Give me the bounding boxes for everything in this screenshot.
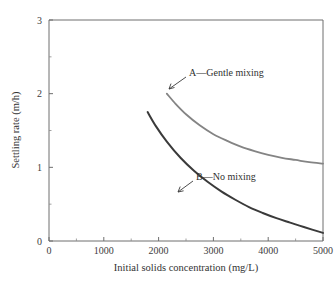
y-tick-label: 1 (37, 162, 42, 173)
y-axis-title: Settling rate (m/h) (10, 91, 22, 168)
x-tick-label: 4000 (258, 245, 278, 256)
y-tick-label: 3 (37, 15, 42, 26)
x-tick-label: 2000 (149, 245, 169, 256)
series-label-a: A—Gentle mixing (189, 67, 264, 78)
chart-figure: 010002000300040005000 0123 A—Gentle mixi… (0, 0, 334, 281)
x-tick-label: 5000 (313, 245, 333, 256)
x-tick-label: 1000 (94, 245, 114, 256)
series-label-b: B—No mixing (196, 171, 256, 182)
y-tick-label: 0 (37, 236, 42, 247)
x-tick-label: 3000 (203, 245, 223, 256)
x-axis-title: Initial solids concentration (mg/L) (114, 262, 259, 274)
y-tick-label: 2 (37, 88, 42, 99)
settling-rate-chart: 010002000300040005000 0123 A—Gentle mixi… (0, 0, 334, 281)
x-tick-label: 0 (47, 245, 52, 256)
